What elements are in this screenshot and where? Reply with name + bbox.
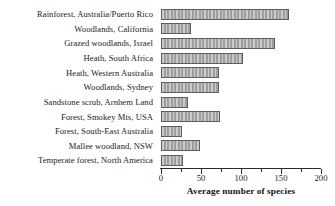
x-axis-tick-labels: 050100150200: [120, 174, 335, 186]
x-axis-minor-tick: [301, 169, 302, 172]
plot-area: [161, 7, 321, 168]
bar-chart: Rainforest, Australia/Puerto RicoWoodlan…: [0, 0, 335, 206]
bar: [161, 53, 243, 64]
x-axis-tick-label: 0: [159, 174, 163, 183]
x-axis-minor-tick: [181, 169, 182, 172]
x-axis-minor-tick: [261, 169, 262, 172]
bar-row: [161, 139, 321, 154]
category-label: Sandstone scrub, Arnhem Land: [0, 95, 157, 110]
bar: [161, 38, 275, 49]
x-axis-tick-label: 50: [197, 174, 206, 183]
category-label: Heath, Western Australia: [0, 66, 157, 81]
x-axis-title: Average number of species: [161, 186, 321, 196]
bar-row: [161, 153, 321, 168]
x-axis-minor-tick: [221, 169, 222, 172]
bar-row: [161, 36, 321, 51]
bar: [161, 111, 220, 122]
bar-row: [161, 22, 321, 37]
bar: [161, 97, 188, 108]
bar-row: [161, 7, 321, 22]
bar-row: [161, 80, 321, 95]
category-label: Woodlands, Sydney: [0, 80, 157, 95]
bar: [161, 67, 219, 78]
category-label: Forest, South-East Australia: [0, 124, 157, 139]
category-axis-labels: Rainforest, Australia/Puerto RicoWoodlan…: [0, 7, 157, 168]
bar: [161, 126, 182, 137]
bar: [161, 155, 183, 166]
x-axis-tick-label: 150: [275, 174, 288, 183]
x-axis-tick-label: 100: [235, 174, 248, 183]
bar-row: [161, 66, 321, 81]
category-label: Forest, Smokey Mts, USA: [0, 109, 157, 124]
category-label: Temperate forest, North America: [0, 153, 157, 168]
bar-row: [161, 109, 321, 124]
category-label: Grazed woodlands, Israel: [0, 36, 157, 51]
bar-row: [161, 51, 321, 66]
category-label: Woodlands, California: [0, 22, 157, 37]
bar: [161, 140, 200, 151]
category-label: Rainforest, Australia/Puerto Rico: [0, 7, 157, 22]
bar-row: [161, 124, 321, 139]
bar-row: [161, 95, 321, 110]
bar: [161, 9, 289, 20]
category-label: Heath, South Africa: [0, 51, 157, 66]
bar: [161, 23, 191, 34]
x-axis-tick-label: 200: [315, 174, 328, 183]
bar: [161, 82, 219, 93]
category-label: Mallee woodland, NSW: [0, 139, 157, 154]
